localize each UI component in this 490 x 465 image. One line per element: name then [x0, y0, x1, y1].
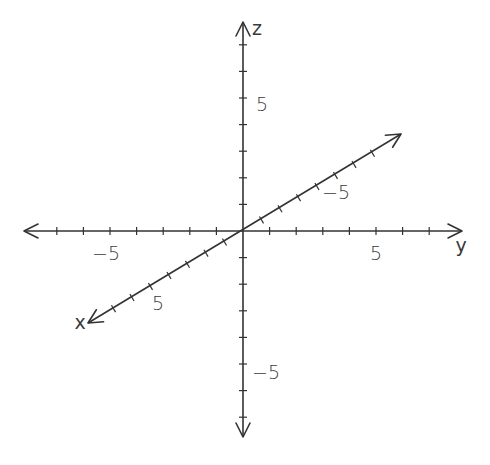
x-axis-line [88, 134, 401, 323]
y-axis-name: y [455, 234, 466, 256]
x-axis-label-pos5: 5 [152, 292, 164, 314]
x-axis-label-neg5: −5 [322, 181, 350, 203]
z-axis-label-neg5: −5 [252, 361, 280, 383]
z-axis-name: z [252, 17, 262, 39]
labels-group: 5−5x5−5y5−5z [74, 17, 466, 383]
axes-diagram: 5−5x5−5y5−5z 3D coordinate axes [0, 0, 490, 465]
y-axis-label-pos5: 5 [370, 242, 382, 264]
axes-svg: 5−5x5−5y5−5z [0, 0, 490, 465]
axes-group [24, 22, 462, 437]
z-axis-label-pos5: 5 [256, 93, 268, 115]
x-axis-name: x [74, 311, 85, 333]
y-axis-label-neg5: −5 [92, 242, 120, 264]
